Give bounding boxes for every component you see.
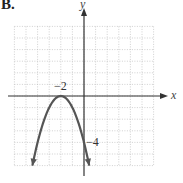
parabola-chart: x y −2 −4 bbox=[0, 0, 183, 183]
x-axis-label: x bbox=[170, 88, 177, 102]
y-axis-label: y bbox=[79, 0, 86, 11]
x-axis-arrow-icon bbox=[160, 93, 168, 99]
y-intercept-label: −4 bbox=[86, 135, 99, 149]
vertex-label: −2 bbox=[54, 79, 67, 93]
